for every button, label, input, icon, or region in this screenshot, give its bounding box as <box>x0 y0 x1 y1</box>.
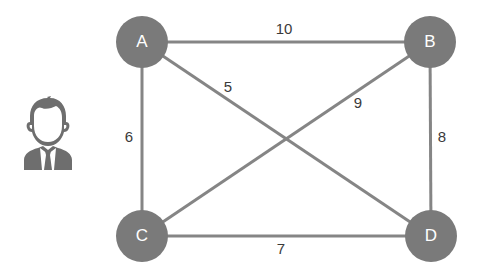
node-d-label: D <box>425 226 437 246</box>
edge-weight-b-c: 9 <box>354 94 362 111</box>
node-a-label: A <box>136 32 147 52</box>
edge-weight-a-c: 6 <box>125 128 133 145</box>
graph-diagram: 10 5 9 6 8 7 A B C D <box>0 0 480 278</box>
node-c: C <box>116 210 168 262</box>
edge-weight-c-d: 7 <box>277 240 285 257</box>
edge-weight-a-b: 10 <box>276 20 293 37</box>
node-a: A <box>116 16 168 68</box>
node-b-label: B <box>424 32 435 52</box>
node-b: B <box>404 16 456 68</box>
node-c-label: C <box>136 226 148 246</box>
edge-weight-a-d: 5 <box>224 78 232 95</box>
edge-weight-b-d: 8 <box>438 128 446 145</box>
node-d: D <box>405 210 457 262</box>
edge-b-d <box>430 42 431 236</box>
person-businessman-icon <box>20 96 76 172</box>
